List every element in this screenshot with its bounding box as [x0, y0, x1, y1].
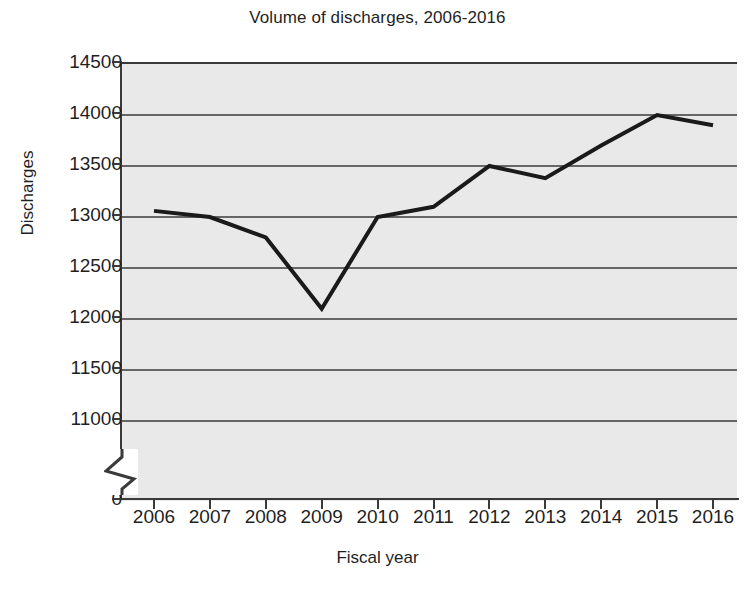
x-tick-mark	[488, 500, 490, 509]
x-tick-mark	[433, 500, 435, 509]
x-tick-mark	[321, 500, 323, 509]
x-axis-ticks: 2006200720082009201020112012201320142015…	[0, 0, 755, 590]
x-tick-mark	[544, 500, 546, 509]
x-tick-mark	[265, 500, 267, 509]
x-tick-mark	[153, 500, 155, 509]
x-tick-mark	[209, 500, 211, 509]
y-axis-break-icon	[104, 449, 138, 495]
x-tick-mark	[377, 500, 379, 509]
x-tick-mark	[656, 500, 658, 509]
x-tick-label: 2016	[678, 506, 748, 528]
chart-figure: Volume of discharges, 2006-2016 Discharg…	[0, 0, 755, 590]
x-tick-mark	[600, 500, 602, 509]
x-tick-mark	[712, 500, 714, 509]
